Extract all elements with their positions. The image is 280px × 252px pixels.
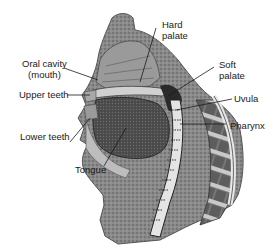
- label-soft-palate: Soft palate: [219, 59, 245, 81]
- label-oral-cavity-line1: Oral cavity: [22, 58, 67, 69]
- upper-lip-teeth: [84, 90, 96, 102]
- label-lower-teeth: Lower teeth: [20, 131, 70, 142]
- label-hard-palate: Hard palate: [162, 19, 188, 41]
- label-soft-palate-line2: palate: [219, 70, 245, 81]
- label-soft-palate-line1: Soft: [219, 59, 245, 70]
- tongue-shape: [93, 97, 169, 158]
- label-oral-cavity: Oral cavity (mouth): [22, 58, 67, 80]
- label-hard-palate-line1: Hard: [162, 19, 188, 30]
- anatomy-diagram: Hard palate Oral cavity (mouth) Soft pal…: [0, 0, 280, 252]
- label-hard-palate-line2: palate: [162, 30, 188, 41]
- label-pharynx: Pharynx: [230, 120, 265, 131]
- label-oral-cavity-line2: (mouth): [22, 69, 67, 80]
- label-tongue: Tongue: [75, 164, 106, 175]
- label-upper-teeth: Upper teeth: [19, 89, 69, 100]
- lower-lip-teeth: [84, 104, 98, 120]
- label-uvula: Uvula: [234, 93, 258, 104]
